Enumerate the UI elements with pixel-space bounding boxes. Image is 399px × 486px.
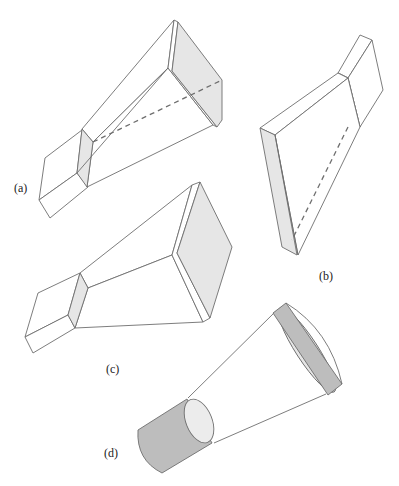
label-c: (c) [106,362,119,376]
horn-antennas-figure: (a) (b) (c) [0,0,399,486]
horn-d [138,302,344,473]
horn-b [260,35,383,255]
label-d: (d) [104,446,118,460]
label-b: (b) [319,269,333,283]
label-a: (a) [14,181,27,195]
